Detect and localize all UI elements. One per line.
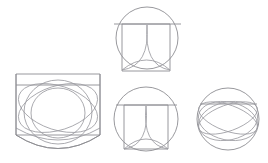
left-ellipse-tilt-left	[12, 74, 104, 141]
figure-circle-square-petal-bottom	[114, 87, 178, 151]
mid-petal-arc-right	[145, 106, 168, 149]
geometric-figures-svg	[0, 0, 268, 163]
mid-petal-arc-left	[124, 106, 147, 149]
figure-circle-crossing-ellipses	[194, 88, 261, 150]
left-bottom-arc-outer	[16, 135, 100, 149]
top-petal-arc-left	[122, 25, 147, 70]
figure-rounded-square-multi-ellipse	[12, 74, 104, 149]
figure-circle-square-petal-top	[114, 7, 181, 71]
top-petal-arc-right	[147, 25, 170, 70]
drawing-canvas	[0, 0, 268, 163]
left-ellipse-tilt-right	[12, 74, 104, 141]
left-ellipse-center	[24, 80, 92, 144]
right-circle	[197, 88, 259, 150]
